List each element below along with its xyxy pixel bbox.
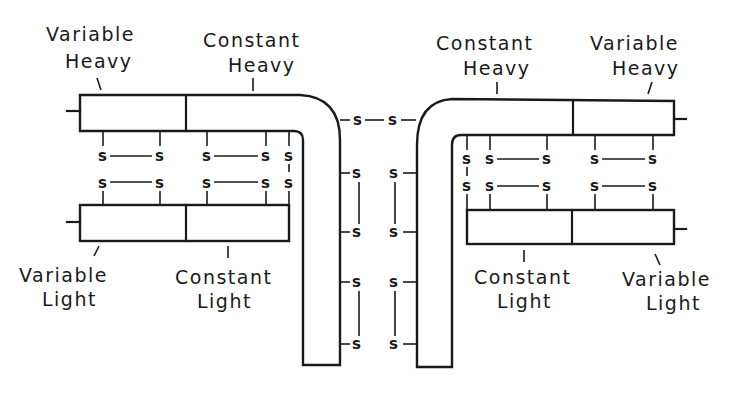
disulfide-s: s [485,177,494,195]
arrow-variable-heavy-left [97,78,101,90]
disulfide-s: s [389,164,398,182]
disulfide-s: s [388,111,397,129]
left-light-chain [80,205,289,241]
label-variable-heavy-left-1: Variable [46,23,135,45]
disulfide-s: s [590,150,599,168]
left-unit: s s s s s s s s s s Variable Heavy Const… [19,23,340,365]
disulfide-s: s [261,174,270,192]
disulfide-s: s [202,147,211,165]
label-constant-heavy-left-2: Heavy [228,54,296,76]
disulfide-s: s [389,335,398,353]
label-constant-heavy-left-1: Constant [203,29,300,51]
arrow-variable-heavy-right [648,82,652,94]
label-variable-light-left-1: Variable [19,264,108,286]
disulfide-s: s [389,223,398,241]
label-variable-light-left-2: Light [42,288,97,310]
disulfide-s: s [261,147,270,165]
label-variable-light-right-1: Variable [622,268,711,290]
disulfide-s: s [590,177,599,195]
disulfide-s: s [648,177,657,195]
disulfide-s: s [352,273,361,291]
label-variable-heavy-left-2: Heavy [65,50,133,72]
label-variable-heavy-right-2: Heavy [612,57,680,79]
arrow-variable-light-right [655,254,660,265]
disulfide-s: s [284,147,293,165]
arrow-variable-light-left [94,246,99,256]
disulfide-s: s [155,174,164,192]
disulfide-s: s [389,273,398,291]
disulfide-s: s [485,150,494,168]
disulfide-s: s [352,223,361,241]
disulfide-s: s [648,150,657,168]
hinge-disulfide-bonds: s s s s s s s s s s [340,111,417,353]
disulfide-s: s [352,164,361,182]
label-constant-heavy-right-2: Heavy [463,57,531,79]
disulfide-s: s [542,150,551,168]
disulfide-s: s [353,111,362,129]
disulfide-s: s [98,147,107,165]
disulfide-s: s [155,147,164,165]
label-constant-light-left-2: Light [197,290,252,312]
label-constant-light-right-1: Constant [474,266,571,288]
right-light-chain [467,210,674,244]
disulfide-s: s [462,177,471,195]
label-constant-heavy-right-1: Constant [436,32,533,54]
label-variable-heavy-right-1: Variable [590,32,679,54]
disulfide-s: s [202,174,211,192]
disulfide-s: s [98,174,107,192]
antibody-structure-diagram: s s s s s s s s s s Variable Heavy Const… [0,0,749,394]
disulfide-s: s [352,335,361,353]
right-unit: s s s s s s s s s s Constant Heavy Varia… [417,32,711,367]
disulfide-s: s [542,177,551,195]
label-constant-light-right-2: Light [497,290,552,312]
label-variable-light-right-2: Light [646,292,701,314]
label-constant-light-left-1: Constant [175,266,272,288]
disulfide-s: s [462,150,471,168]
disulfide-s: s [284,174,293,192]
